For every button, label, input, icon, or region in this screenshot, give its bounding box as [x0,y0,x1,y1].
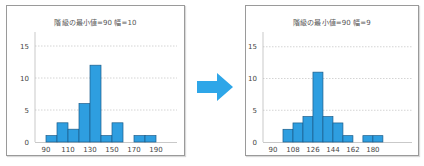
y-tick-label: 5 [253,107,257,115]
histogram-bar [90,65,101,142]
histogram-bar [112,123,123,142]
x-tick-label: 150 [105,146,118,154]
histogram-bar [79,104,90,142]
x-tick-label: 110 [61,146,74,154]
histogram-bar [101,136,112,142]
histogram-bar [134,136,145,142]
histogram-bar [343,136,353,142]
x-tick-label: 190 [149,146,162,154]
histogram-bar [283,129,293,142]
y-tick-label: 10 [20,75,29,83]
y-tick-label: 5 [25,107,29,115]
histogram-bar [303,117,313,142]
histogram-bar [145,136,156,142]
y-tick-label: 15 [248,43,257,51]
x-tick-label: 180 [366,146,379,154]
y-tick-label: 0 [253,139,257,147]
y-tick-label: 0 [25,139,29,147]
x-tick-label: 90 [269,146,278,154]
x-tick-label: 170 [127,146,140,154]
histogram-width-10: 05101590110130150170190 [7,6,184,155]
right-arrow-icon [195,71,235,103]
x-tick-label: 162 [346,146,359,154]
histogram-bar [323,117,333,142]
histogram-width-9: 05101590108126144162180 [246,6,418,155]
y-tick-label: 15 [20,43,29,51]
histogram-bar [57,123,68,142]
histogram-bar [68,129,79,142]
x-tick-label: 108 [286,146,299,154]
y-tick-label: 10 [248,75,257,83]
chart-panel-width-10: 階級の最小値=90 幅=10 05101590110130150170190 [6,5,185,156]
chart-panel-width-9: 階級の最小値=90 幅=9 05101590108126144162180 [245,5,419,156]
x-tick-label: 90 [42,146,51,154]
histogram-bar [293,123,303,142]
x-tick-label: 126 [306,146,320,154]
histogram-bar [373,136,383,142]
x-tick-label: 144 [326,146,340,154]
histogram-bar [333,123,343,142]
histogram-bar [313,72,323,142]
x-tick-label: 130 [83,146,96,154]
histogram-bar [363,136,373,142]
histogram-bar [46,136,57,142]
